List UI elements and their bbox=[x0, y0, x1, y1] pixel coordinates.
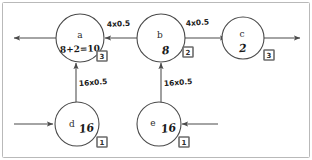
node-a-label: a bbox=[77, 30, 83, 40]
node-e-label: e bbox=[150, 118, 155, 128]
edge-d-to-a: 16x0.5 bbox=[76, 63, 108, 104]
node-c-badge-text: 3 bbox=[267, 52, 272, 60]
edge-label-e-to-b: 16x0.5 bbox=[164, 77, 193, 88]
node-b-badge: 2 bbox=[183, 47, 193, 57]
node-d[interactable]: d 16 bbox=[55, 102, 99, 146]
node-e-badge: 1 bbox=[179, 137, 189, 147]
edge-e-to-b: 16x0.5 bbox=[161, 63, 193, 104]
node-c-badge: 3 bbox=[264, 50, 274, 60]
edge-label-b-to-c: 4x0.5 bbox=[186, 17, 210, 28]
diagram-canvas: 4x0.5 4x0.5 16x0.5 16x0.5 bbox=[0, 0, 312, 160]
node-e-value: 16 bbox=[160, 121, 177, 136]
node-b-label: b bbox=[157, 30, 163, 40]
node-a-badge: 3 bbox=[97, 51, 107, 61]
node-a-value: 8+2=10 bbox=[60, 43, 100, 54]
node-b-badge-text: 2 bbox=[186, 49, 191, 57]
node-d-badge: 1 bbox=[97, 137, 107, 147]
node-d-label: d bbox=[69, 119, 75, 129]
node-a-badge-text: 3 bbox=[100, 53, 105, 61]
node-c-value: 2 bbox=[237, 42, 247, 56]
node-e-badge-text: 1 bbox=[182, 139, 187, 147]
edge-label-b-to-a: 4x0.5 bbox=[107, 19, 131, 29]
node-c-label: c bbox=[239, 29, 244, 39]
edge-label-d-to-a: 16x0.5 bbox=[79, 77, 108, 88]
node-d-value: 16 bbox=[78, 121, 95, 136]
node-b[interactable]: b 8 bbox=[137, 14, 185, 62]
node-c[interactable]: c 2 bbox=[222, 17, 264, 59]
node-e[interactable]: e 16 bbox=[137, 102, 181, 146]
node-d-badge-text: 1 bbox=[100, 139, 105, 147]
